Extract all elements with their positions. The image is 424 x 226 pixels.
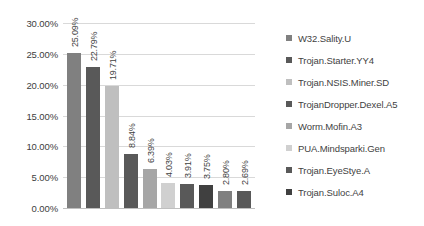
bar[interactable] bbox=[86, 67, 100, 208]
axis-baseline bbox=[63, 208, 255, 209]
legend-item[interactable]: TrojanDropper.Dexel.A5 bbox=[286, 93, 422, 115]
y-axis-tick-label: 0.00% bbox=[32, 203, 58, 214]
bar[interactable] bbox=[199, 185, 213, 208]
bar[interactable] bbox=[161, 183, 175, 208]
bar-slot: 4.03% bbox=[161, 23, 175, 208]
legend-item[interactable]: PUA.Mindsparki.Gen bbox=[286, 137, 422, 159]
legend-item-label: Trojan.Suloc.A4 bbox=[298, 187, 364, 198]
bar-value-label: 3.75% bbox=[202, 154, 212, 179]
y-axis-tick-label: 15.00% bbox=[26, 110, 58, 121]
y-axis-tick-label: 25.00% bbox=[26, 48, 58, 59]
legend: W32.Sality.UTrojan.Starter.YY4Trojan.NSI… bbox=[286, 27, 422, 203]
legend-item-label: Trojan.Starter.YY4 bbox=[298, 55, 374, 66]
legend-item-label: Worm.Mofin.A3 bbox=[298, 121, 362, 132]
legend-swatch-icon bbox=[286, 145, 292, 151]
bar[interactable] bbox=[143, 169, 157, 208]
legend-item-label: Trojan.EyeStye.A bbox=[298, 165, 370, 176]
legend-item-label: PUA.Mindsparki.Gen bbox=[298, 143, 385, 154]
legend-swatch-icon bbox=[286, 57, 292, 63]
bar[interactable] bbox=[124, 154, 138, 209]
y-axis-tick-label: 5.00% bbox=[32, 172, 58, 183]
bar-value-label: 22.79% bbox=[89, 32, 99, 61]
bar[interactable] bbox=[180, 184, 194, 208]
legend-item[interactable]: Trojan.Starter.YY4 bbox=[286, 49, 422, 71]
bar-slot: 2.80% bbox=[218, 23, 232, 208]
bar-slot: 2.69% bbox=[237, 23, 251, 208]
bar[interactable] bbox=[237, 191, 251, 208]
bar[interactable] bbox=[218, 191, 232, 208]
bar-value-label: 19.71% bbox=[108, 51, 118, 80]
bar-slot: 8.84% bbox=[124, 23, 138, 208]
bar-value-label: 3.91% bbox=[183, 153, 193, 178]
bar-slot: 3.91% bbox=[180, 23, 194, 208]
legend-item[interactable]: Trojan.NSIS.Miner.SD bbox=[286, 71, 422, 93]
bar-value-label: 4.03% bbox=[164, 153, 174, 178]
y-axis-labels: 30.00%25.00%20.00%15.00%10.00%5.00%0.00% bbox=[0, 23, 58, 208]
bar-slot: 22.79% bbox=[86, 23, 100, 208]
bar[interactable] bbox=[105, 86, 119, 208]
bar-value-label: 25.09% bbox=[70, 18, 80, 47]
legend-item[interactable]: Trojan.Suloc.A4 bbox=[286, 181, 422, 203]
y-axis-tick-label: 30.00% bbox=[26, 18, 58, 29]
bar[interactable] bbox=[67, 53, 81, 208]
bars-container: 25.09%22.79%19.71%8.84%6.39%4.03%3.91%3.… bbox=[63, 23, 255, 208]
legend-item-label: W32.Sality.U bbox=[298, 33, 351, 44]
legend-swatch-icon bbox=[286, 123, 292, 129]
bar-value-label: 2.80% bbox=[221, 160, 231, 185]
legend-swatch-icon bbox=[286, 189, 292, 195]
legend-item-label: Trojan.NSIS.Miner.SD bbox=[298, 77, 389, 88]
bar-chart: 30.00%25.00%20.00%15.00%10.00%5.00%0.00%… bbox=[0, 0, 424, 226]
legend-item-label: TrojanDropper.Dexel.A5 bbox=[298, 99, 397, 110]
y-axis-tick-label: 10.00% bbox=[26, 141, 58, 152]
legend-swatch-icon bbox=[286, 101, 292, 107]
bar-value-label: 8.84% bbox=[127, 123, 137, 148]
legend-item[interactable]: Worm.Mofin.A3 bbox=[286, 115, 422, 137]
legend-item[interactable]: W32.Sality.U bbox=[286, 27, 422, 49]
bar-value-label: 6.39% bbox=[146, 138, 156, 163]
bar-slot: 19.71% bbox=[105, 23, 119, 208]
bar-value-label: 2.69% bbox=[240, 161, 250, 186]
bar-slot: 3.75% bbox=[199, 23, 213, 208]
bar-slot: 6.39% bbox=[143, 23, 157, 208]
legend-swatch-icon bbox=[286, 35, 292, 41]
legend-swatch-icon bbox=[286, 167, 292, 173]
legend-swatch-icon bbox=[286, 79, 292, 85]
bar-slot: 25.09% bbox=[67, 23, 81, 208]
legend-item[interactable]: Trojan.EyeStye.A bbox=[286, 159, 422, 181]
y-axis-tick-label: 20.00% bbox=[26, 79, 58, 90]
plot-area: 25.09%22.79%19.71%8.84%6.39%4.03%3.91%3.… bbox=[63, 23, 255, 208]
